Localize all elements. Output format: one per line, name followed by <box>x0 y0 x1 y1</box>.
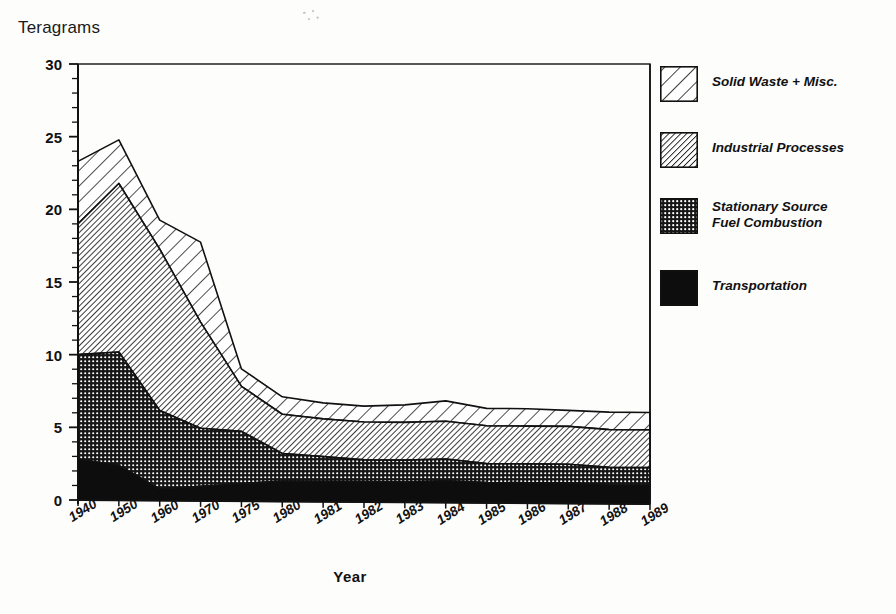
y-tick-label-25: 25 <box>26 128 62 145</box>
legend-swatch-transportation <box>660 270 698 306</box>
y-tick-label-30: 30 <box>26 56 62 73</box>
y-tick-label-20: 20 <box>26 201 62 218</box>
y-tick-label-0: 0 <box>26 492 62 509</box>
legend-item-3[interactable]: Transportation <box>660 270 807 306</box>
x-axis-title: Year <box>0 568 700 585</box>
area-bands <box>78 140 650 504</box>
y-tick-label-15: 15 <box>26 274 62 291</box>
legend-item-2[interactable]: Stationary Source Fuel Combustion <box>660 198 828 234</box>
legend-label-0: Solid Waste + Misc. <box>712 66 837 90</box>
chart-page: Teragrams <box>0 0 896 614</box>
legend-label-1: Industrial Processes <box>712 132 844 156</box>
legend-label-2: Stationary Source Fuel Combustion <box>712 198 828 231</box>
legend-item-1[interactable]: Industrial Processes <box>660 132 844 168</box>
legend-item-0[interactable]: Solid Waste + Misc. <box>660 66 837 102</box>
legend-label-3: Transportation <box>712 270 807 294</box>
y-tick-label-5: 5 <box>26 419 62 436</box>
y-tick-label-10: 10 <box>26 346 62 363</box>
legend-swatch-solid-waste <box>660 66 698 102</box>
legend-swatch-industrial-processes <box>660 132 698 168</box>
legend-swatch-stationary-source <box>660 198 698 234</box>
